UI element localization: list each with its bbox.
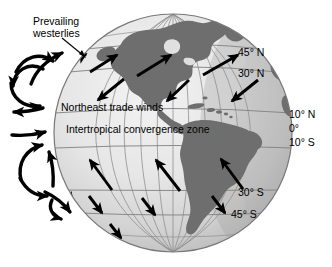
label-latitude-45n: 45° N — [238, 47, 264, 58]
cell-arrow-hadley-s-descend — [49, 152, 53, 186]
wind-belt-diagram: Prevailing westerlies Northeast trade wi… — [0, 0, 332, 267]
callout-line-1: Prevailing — [33, 15, 80, 27]
callout-line-2: westerlies — [33, 27, 80, 39]
label-latitude-0: 0° — [289, 123, 299, 134]
label-latitude-10s: 10° S — [289, 137, 315, 148]
label-latitude-10n: 10° N — [289, 109, 315, 120]
cell-arrow-ferrel-s-surface — [45, 192, 70, 212]
cell-arrow-hadley-n-equator — [12, 132, 45, 135]
cell-arrow-hadley-n-surface — [14, 108, 43, 112]
label-northeast-trade-winds: Northeast trade winds — [61, 101, 163, 113]
hudson-bay — [164, 39, 180, 54]
cell-arrow-ferrel-n-bottom — [11, 83, 40, 106]
label-latitude-45s: 45° S — [231, 209, 257, 220]
cell-arrow-hadley-s-surface — [20, 178, 47, 196]
cell-arrow-hadley-s-rise — [20, 145, 42, 180]
label-latitude-30s: 30° S — [238, 187, 264, 198]
callout-leader-line — [62, 38, 86, 58]
label-latitude-30n: 30° N — [238, 68, 264, 79]
callout-prevailing-westerlies: Prevailing westerlies — [33, 15, 80, 40]
label-intertropical-convergence-zone: Intertropical convergence zone — [66, 123, 210, 135]
